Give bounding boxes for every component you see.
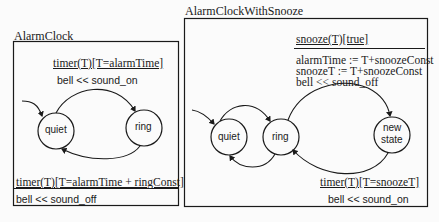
state-new-state-label-2: state [381, 134, 403, 146]
alarmclock-ring-quiet-trigger: timer(T)[T=alarmTime + ringConst] [16, 176, 184, 188]
state-quiet-label: quiet [45, 124, 67, 136]
alarmclock-quiet-ring-action: bell << sound_on [57, 74, 138, 86]
initial-transition [22, 101, 42, 116]
state-ring-label: ring [135, 121, 152, 133]
state-ring-snooze-label: ring [272, 131, 289, 143]
transition-ring-to-new-state[interactable] [288, 83, 390, 120]
snooze-trigger: snooze(T)[true] [296, 33, 368, 45]
alarmclock-ring-quiet-action: bell << sound_off [16, 193, 96, 205]
transition-ring-to-quiet-snooze[interactable] [230, 154, 275, 167]
initial-transition-snooze [192, 110, 214, 124]
alarmclock-quiet-ring-trigger: timer(T)[T=alarmTime] [53, 57, 163, 69]
alarmclockwithsnooze-title: AlarmClockWithSnooze [185, 5, 303, 17]
snooze-action-3: bell << sound_off [296, 76, 378, 88]
state-new-state-label-1: new [383, 122, 401, 134]
timer-snooze-trigger: timer(T)[T=snoozeT] [320, 176, 419, 188]
state-quiet-snooze-label: quiet [218, 131, 240, 143]
transition-ring-to-quiet[interactable] [62, 146, 140, 159]
timer-snooze-action: bell << sound_on [328, 193, 409, 205]
transition-quiet-to-ring[interactable] [56, 89, 135, 113]
transition-new-state-to-ring[interactable] [293, 150, 388, 174]
alarmclock-title: AlarmClock [14, 30, 73, 42]
